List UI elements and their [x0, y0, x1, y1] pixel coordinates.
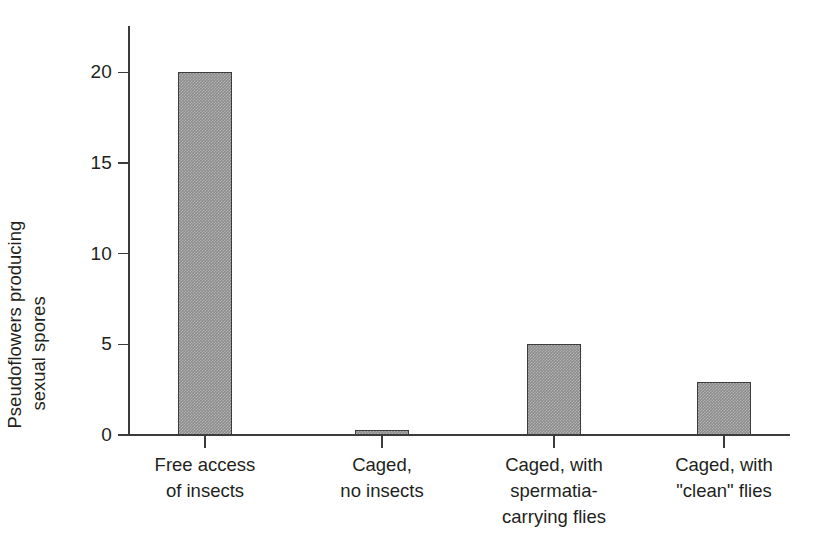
bar-chart-figure: Pseudoflowers producing sexual spores 05…	[0, 0, 824, 545]
y-axis-tick	[118, 162, 129, 164]
y-axis-title-line-2: sexual spores	[30, 296, 49, 410]
y-axis-title-line-1: Pseudoflowers producing	[6, 221, 25, 429]
x-axis-category-label: Caged, with "clean" flies	[629, 452, 819, 504]
x-axis-tick	[204, 436, 206, 448]
bar	[697, 382, 751, 435]
y-axis-tick-label: 20	[66, 62, 112, 81]
bar	[178, 72, 232, 435]
y-axis-tick	[118, 344, 129, 346]
y-axis-tick-label: 0	[66, 425, 112, 444]
x-axis-category-label: Free access of insects	[110, 452, 300, 504]
bar	[355, 430, 409, 435]
y-axis-tick-label: 10	[66, 244, 112, 263]
x-axis-tick	[723, 436, 725, 448]
y-axis-tick-label: 15	[66, 153, 112, 172]
y-axis-title: Pseudoflowers producing sexual spores	[0, 0, 62, 545]
x-axis-tick	[381, 436, 383, 448]
x-axis-category-label: Caged, no insects	[287, 452, 477, 504]
y-axis-tick	[118, 434, 129, 436]
y-axis-tick-label: 5	[66, 334, 112, 353]
y-axis-tick	[118, 72, 129, 74]
y-axis-tick-labels: 05101520	[62, 0, 112, 545]
x-axis-category-label: Caged, with spermatia- carrying flies	[459, 452, 649, 530]
y-axis-tick	[118, 253, 129, 255]
y-axis-line	[128, 26, 130, 436]
x-axis-tick	[553, 436, 555, 448]
bar	[527, 344, 581, 435]
